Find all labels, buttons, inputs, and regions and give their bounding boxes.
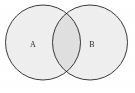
set-label-a: A	[30, 40, 36, 49]
venn-diagram-canvas: A B	[0, 0, 135, 93]
set-label-b: B	[89, 40, 94, 49]
venn-diagram-figure: A B	[0, 0, 135, 93]
